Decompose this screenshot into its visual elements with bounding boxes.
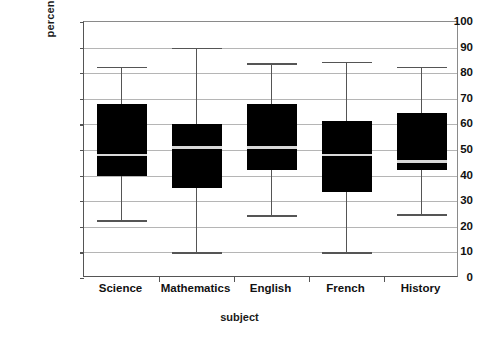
lower-whisker-cap [322,252,372,254]
y-axis-tick-label: 10 [407,245,479,257]
box-plot-science [97,22,147,276]
upper-whisker-cap [322,62,372,64]
y-axis-tick-label: 60 [407,117,479,129]
lower-whisker-cap [97,220,147,222]
x-axis-tick-mark [309,276,310,282]
x-axis-tick-label: Science [99,282,142,294]
upper-whisker-stem [196,48,197,125]
median-line [247,146,297,148]
x-axis-tick-mark [234,276,235,282]
upper-whisker-cap [97,67,147,69]
x-axis-tick-label: French [326,282,364,294]
y-axis-tick-label: 100 [407,15,479,27]
upper-whisker-stem [346,62,347,121]
y-axis-tick-mark [80,22,84,23]
median-line [397,160,447,162]
lower-whisker-stem [346,192,347,252]
box-plot-mathematics [172,22,222,276]
y-axis-tick-mark [80,176,84,177]
upper-whisker-cap [247,63,297,65]
median-line [172,146,222,148]
lower-whisker-cap [247,215,297,217]
x-axis-title: subject [0,311,479,323]
x-axis-tick-label: History [401,282,441,294]
upper-whisker-stem [271,63,272,104]
median-line [97,154,147,156]
upper-whisker-cap [172,48,222,50]
y-axis-tick-mark [80,99,84,100]
lower-whisker-stem [196,188,197,252]
box-plot-english [247,22,297,276]
y-axis-tick-label: 30 [407,194,479,206]
box-iqr-rect [322,121,372,193]
lower-whisker-stem [271,170,272,215]
lower-whisker-stem [121,176,122,221]
y-axis-tick-mark [80,150,84,151]
y-axis-tick-mark [80,252,84,253]
lower-whisker-cap [397,214,447,216]
y-axis-tick-mark [80,73,84,74]
y-axis-tick-mark [80,278,84,279]
y-axis-tick-label: 90 [407,41,479,53]
y-axis-title: percentage mark [38,0,62,112]
y-axis-tick-mark [80,48,84,49]
lower-whisker-cap [172,252,222,254]
box-iqr-rect [97,104,147,176]
y-axis-tick-label: 80 [407,66,479,78]
y-axis-tick-label: 20 [407,220,479,232]
box-iqr-rect [172,124,222,188]
y-axis-tick-label: 50 [407,143,479,155]
x-axis-tick-label: English [250,282,292,294]
box-iqr-rect [247,104,297,171]
upper-whisker-stem [121,67,122,104]
box-plot-french [322,22,372,276]
y-axis-tick-label: 70 [407,92,479,104]
median-line [322,154,372,156]
y-axis-tick-mark [80,201,84,202]
x-axis-tick-label: Mathematics [161,282,231,294]
y-axis-tick-mark [80,124,84,125]
x-axis-tick-mark [384,276,385,282]
y-axis-tick-label: 40 [407,169,479,181]
box-plot-chart: percentage mark 0102030405060708090100 S… [0,0,479,339]
plot-area [83,21,458,277]
y-axis-tick-mark [80,227,84,228]
